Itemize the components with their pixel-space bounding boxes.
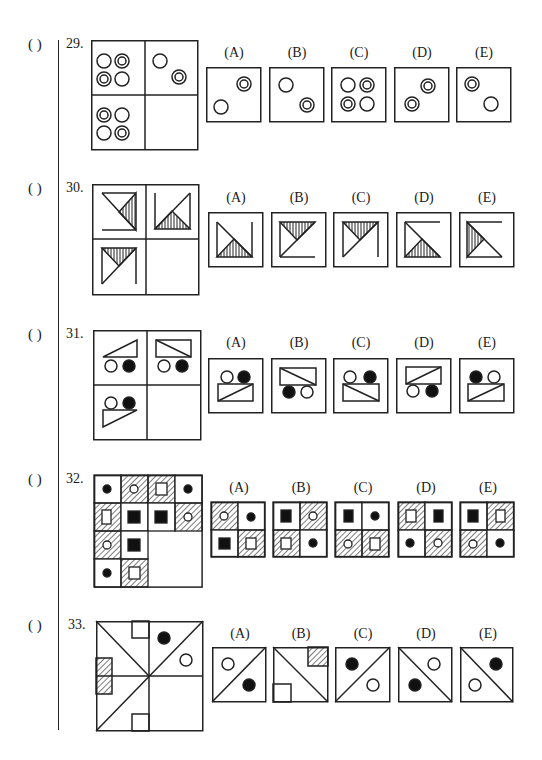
- option-box-30-c[interactable]: [333, 212, 389, 268]
- option-label-29-a: (A): [206, 45, 262, 61]
- option-box-31-b[interactable]: [271, 358, 327, 414]
- option-label-30-b: (B): [271, 190, 327, 206]
- option-box-30-b[interactable]: [271, 212, 327, 268]
- problem-grid-29: [91, 40, 199, 151]
- option-label-30-d: (D): [396, 190, 452, 206]
- option-label-32-b: (B): [273, 480, 329, 496]
- option-box-29-e[interactable]: [456, 67, 512, 123]
- option-label-31-d: (D): [396, 335, 452, 351]
- option-box-32-d[interactable]: [398, 502, 453, 558]
- option-label-31-b: (B): [271, 335, 327, 351]
- option-label-29-c: (C): [331, 45, 387, 61]
- option-label-30-c: (C): [333, 190, 389, 206]
- option-label-32-d: (D): [398, 480, 454, 496]
- option-box-32-a[interactable]: [211, 502, 266, 558]
- option-label-29-b: (B): [269, 45, 325, 61]
- answer-blank-30[interactable]: ( ): [28, 180, 42, 197]
- option-box-29-c[interactable]: [331, 67, 387, 123]
- answer-blank-33[interactable]: ( ): [28, 617, 42, 634]
- option-label-30-a: (A): [208, 190, 264, 206]
- option-box-32-e[interactable]: [460, 502, 515, 558]
- option-box-33-b[interactable]: [273, 647, 329, 703]
- option-box-33-a[interactable]: [212, 647, 267, 703]
- problem-grid-33: [96, 621, 204, 732]
- option-label-29-d: (D): [394, 45, 450, 61]
- option-label-31-e: (E): [459, 335, 515, 351]
- option-box-29-a[interactable]: [206, 67, 262, 123]
- question-number-33: 33.: [68, 617, 86, 633]
- problem-grid-32: [94, 475, 203, 588]
- option-label-31-c: (C): [333, 335, 389, 351]
- question-number-29: 29.: [66, 36, 84, 52]
- problem-grid-30: [92, 184, 200, 296]
- option-label-33-c: (C): [335, 626, 391, 642]
- option-box-30-e[interactable]: [459, 212, 515, 268]
- margin-divider-line: [58, 40, 59, 730]
- option-box-31-e[interactable]: [459, 358, 515, 414]
- option-label-30-e: (E): [459, 190, 515, 206]
- option-label-29-e: (E): [456, 45, 512, 61]
- option-box-30-d[interactable]: [396, 212, 452, 268]
- answer-blank-31[interactable]: ( ): [28, 326, 42, 343]
- option-box-30-a[interactable]: [208, 212, 264, 268]
- option-label-33-e: (E): [460, 626, 516, 642]
- question-number-30: 30.: [66, 180, 84, 196]
- option-label-32-e: (E): [460, 480, 516, 496]
- option-box-33-d[interactable]: [398, 647, 453, 703]
- answer-blank-32[interactable]: ( ): [28, 471, 42, 488]
- option-box-32-b[interactable]: [273, 502, 328, 558]
- option-label-31-a: (A): [208, 335, 264, 351]
- option-label-32-c: (C): [335, 480, 391, 496]
- option-box-33-e[interactable]: [460, 647, 514, 703]
- answer-blank-29[interactable]: ( ): [28, 36, 42, 53]
- option-label-32-a: (A): [211, 480, 267, 496]
- option-label-33-b: (B): [273, 626, 329, 642]
- option-box-29-b[interactable]: [269, 67, 325, 123]
- option-label-33-d: (D): [398, 626, 454, 642]
- option-box-31-a[interactable]: [208, 358, 264, 414]
- option-box-29-d[interactable]: [394, 67, 450, 123]
- question-number-32: 32.: [66, 471, 84, 487]
- problem-grid-31: [93, 330, 202, 441]
- option-box-31-d[interactable]: [396, 358, 452, 414]
- option-label-33-a: (A): [212, 626, 268, 642]
- option-box-33-c[interactable]: [335, 647, 391, 703]
- question-number-31: 31.: [66, 326, 84, 342]
- option-box-31-c[interactable]: [333, 358, 389, 414]
- option-box-32-c[interactable]: [335, 502, 390, 558]
